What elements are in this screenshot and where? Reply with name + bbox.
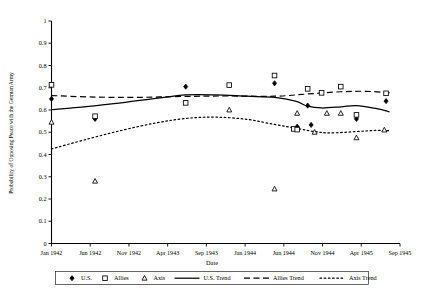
marker-us-diamond (306, 103, 310, 108)
x-tick-label: Apr 1945 (350, 250, 373, 256)
y-tick-label: 0 (43, 240, 46, 247)
marker-allies-square (338, 84, 343, 89)
legend-label: Axis Trend (349, 274, 378, 281)
x-tick-label: Nov 1944 (310, 250, 334, 256)
y-axis-ticks: 00.10.20.30.40.50.60.70.80.91 (39, 17, 52, 247)
x-tick-label: Sep 1943 (195, 250, 218, 256)
chart-figure: Probability of Opposing Peace with the G… (0, 0, 424, 295)
x-axis-title: Date (206, 259, 218, 266)
marker-allies-square (272, 73, 277, 78)
marker-allies-square (319, 91, 324, 96)
marker-allies-square (49, 83, 54, 88)
marker-us-diamond (384, 99, 388, 104)
y-tick-label: 0.4 (39, 151, 47, 158)
marker-axis-triangle (338, 111, 343, 116)
x-axis-ticks: Jan 1942Jun 1942Nov 1942Apr 1943Sep 1943… (41, 244, 412, 257)
data-point-markers (49, 73, 388, 191)
marker-us-diamond (309, 122, 313, 127)
legend-label: Axis (154, 274, 166, 281)
y-axis-title-group: Probability of Opposing Peace with the G… (8, 72, 14, 194)
y-tick-label: 0.9 (39, 39, 47, 46)
y-tick-label: 0.2 (39, 195, 47, 202)
x-tick-label: Sep 1945 (389, 250, 412, 256)
trend-line-dashed (52, 91, 390, 97)
x-tick-label: Nov 1942 (117, 250, 141, 256)
y-tick-label: 1 (43, 17, 46, 24)
marker-us-diamond (49, 96, 53, 101)
marker-axis-triangle (354, 135, 359, 140)
marker-axis-triangle (324, 111, 329, 116)
marker-axis-triangle (295, 111, 300, 116)
x-tick-label: Jun 1942 (79, 250, 101, 256)
y-tick-label: 0.1 (39, 217, 47, 224)
marker-axis-triangle (93, 179, 98, 184)
trend-line-dotted (52, 117, 390, 149)
x-tick-label: Jan 1944 (234, 250, 256, 256)
y-tick-label: 0.6 (39, 106, 47, 113)
x-tick-label: Apr 1943 (156, 250, 179, 256)
marker-allies-square (305, 87, 310, 92)
trend-lines (52, 91, 390, 149)
y-tick-label: 0.7 (39, 84, 47, 91)
chart-canvas: Probability of Opposing Peace with the G… (0, 0, 424, 295)
legend-label: U.S. Trend (204, 274, 232, 281)
marker-axis-triangle (49, 120, 54, 125)
marker-allies-square (93, 114, 98, 119)
legend-label: U.S. (81, 274, 92, 281)
y-tick-label: 0.3 (39, 173, 47, 180)
marker-allies-square (103, 276, 108, 281)
marker-axis-triangle (382, 127, 387, 132)
marker-axis-triangle (227, 107, 232, 112)
marker-allies-square (295, 127, 300, 132)
marker-us-diamond (272, 81, 276, 86)
y-tick-label: 0.5 (39, 128, 47, 135)
y-tick-label: 0.8 (39, 62, 47, 69)
legend-label: Allies (114, 274, 129, 281)
marker-allies-square (384, 91, 389, 96)
legend-label: Allies Trend (273, 274, 305, 281)
marker-allies-square (183, 101, 188, 106)
marker-axis-triangle (272, 186, 277, 191)
marker-allies-square (354, 113, 359, 118)
marker-us-diamond (184, 84, 188, 89)
x-tick-label: Jan 1942 (41, 250, 63, 256)
chart-legend: U.S.AlliesAxisU.S. TrendAllies TrendAxis… (56, 272, 378, 285)
x-tick-label: Jun 1944 (273, 250, 295, 256)
y-axis-title: Probability of Opposing Peace with the G… (8, 72, 14, 194)
marker-allies-square (227, 83, 232, 88)
